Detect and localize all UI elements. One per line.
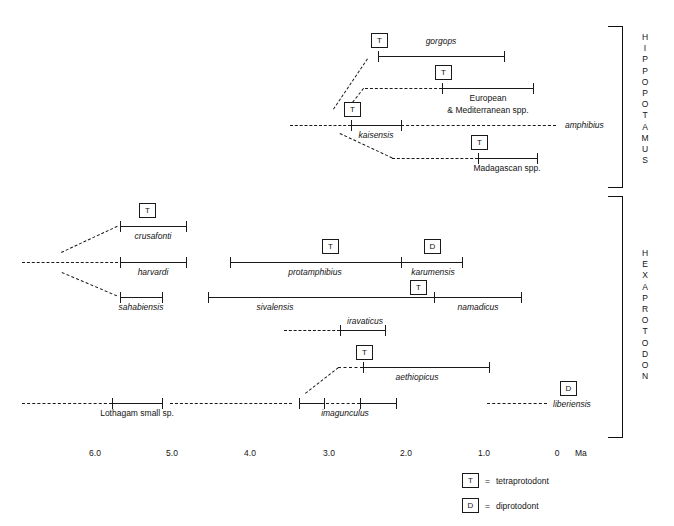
axis-tick-0: 0 bbox=[555, 448, 560, 458]
range-dash-madagascan bbox=[392, 158, 478, 159]
range-bar-iravaticus bbox=[340, 330, 385, 331]
clade-label-hippopotamus: HIPPOPOTAMUS bbox=[638, 32, 652, 166]
range-bar-kaisensis bbox=[351, 125, 401, 126]
range-cap-gorgops-right bbox=[504, 51, 505, 62]
legend-symbol-T: T bbox=[462, 473, 479, 488]
taxon-label-aethiopicus: aethiopicus bbox=[395, 372, 438, 382]
legend-row-diprotodont: D = diprotodont bbox=[462, 498, 539, 513]
range-chart-figure: T gorgops T European & Mediterranean spp… bbox=[0, 0, 674, 526]
range-cap-protamphibius-karumensis-divider bbox=[401, 257, 402, 268]
range-dash-lothagam-left bbox=[22, 403, 112, 404]
taxon-label-euromed: European bbox=[470, 93, 507, 103]
range-cap-sivalensis-left bbox=[208, 292, 209, 303]
marker-T-protamphibius: T bbox=[322, 239, 339, 254]
clade-bracket-hexaprotodon bbox=[608, 196, 623, 438]
taxon-label-protamphibius: protamphibius bbox=[288, 267, 341, 277]
taxon-label-namadicus: namadicus bbox=[457, 302, 498, 312]
range-bar-harvardi bbox=[120, 262, 186, 263]
range-cap-crusafonti-left bbox=[120, 221, 121, 232]
axis-tick-6.0: 6.0 bbox=[89, 448, 101, 458]
range-dash-imagunculus bbox=[326, 403, 360, 404]
range-bar-madagascan bbox=[478, 158, 537, 159]
range-dash-iravaticus bbox=[284, 330, 340, 331]
marker-D-liberiensis: D bbox=[560, 381, 577, 396]
taxon-label-crusafonti: crusafonti bbox=[135, 231, 172, 241]
range-dash-harvardi bbox=[22, 262, 118, 263]
range-bar-sahabiensis bbox=[120, 297, 162, 298]
taxon-label-madagascan: Madagascan spp. bbox=[473, 163, 540, 173]
axis-tick-1.0: 1.0 bbox=[478, 448, 490, 458]
range-bar-protamphibius-karumensis bbox=[230, 262, 462, 263]
range-cap-namadicus-right bbox=[521, 292, 522, 303]
taxon-label-imagunculus: imagunculus bbox=[321, 408, 369, 418]
marker-T-gorgops: T bbox=[371, 33, 388, 48]
range-cap-aethiopicus-left bbox=[363, 362, 364, 373]
axis-tick-4.0: 4.0 bbox=[244, 448, 256, 458]
range-cap-imagunculus-a-left bbox=[299, 398, 300, 409]
taxon-label-amphibius: amphibius bbox=[565, 120, 604, 130]
axis-tick-5.0: 5.0 bbox=[166, 448, 178, 458]
range-cap-harvardi-left bbox=[120, 257, 121, 268]
range-bar-gorgops bbox=[378, 56, 504, 57]
taxon-label-karumensis: karumensis bbox=[411, 267, 454, 277]
axis-tick-3.0: 3.0 bbox=[323, 448, 335, 458]
range-cap-harvardi-right bbox=[186, 257, 187, 268]
taxon-label-iravaticus: iravaticus bbox=[347, 316, 383, 326]
range-cap-gorgops-left bbox=[378, 51, 379, 62]
axis-tick-2.0: 2.0 bbox=[400, 448, 412, 458]
marker-T-euromed: T bbox=[435, 65, 452, 80]
legend-symbol-D: D bbox=[462, 498, 479, 513]
marker-T-crusafonti: T bbox=[139, 203, 156, 218]
range-cap-euromed-left bbox=[442, 83, 443, 94]
range-dash-kaisensis-left bbox=[290, 125, 351, 126]
legend-equals-T: = bbox=[485, 476, 490, 486]
range-cap-crusafonti-right bbox=[186, 221, 187, 232]
range-dash-euromed bbox=[365, 88, 442, 89]
marker-T-aethiopicus: T bbox=[356, 345, 373, 360]
range-cap-iravaticus-right bbox=[385, 325, 386, 336]
range-dash-liberiensis bbox=[487, 403, 547, 404]
clade-label-hexaprotodon: HEXAPROTODON bbox=[638, 248, 652, 382]
marker-T-madagascan: T bbox=[471, 135, 488, 150]
range-cap-kaisensis-left bbox=[351, 120, 352, 131]
range-bar-sivalensis-namadicus bbox=[208, 297, 521, 298]
range-cap-aethiopicus-right bbox=[489, 362, 490, 373]
range-dash-amphibius bbox=[401, 125, 556, 126]
clade-bracket-hippopotamus bbox=[608, 26, 623, 188]
lineage-link-aethiopicus bbox=[305, 367, 339, 394]
taxon-label-sivalensis: sivalensis bbox=[257, 302, 294, 312]
legend-text-diprotodont: diprotodont bbox=[496, 501, 539, 511]
range-bar-imagunculus-b bbox=[360, 403, 396, 404]
range-dash-lothagam-right bbox=[170, 403, 292, 404]
range-bar-lothagam bbox=[112, 403, 162, 404]
range-cap-protamphibius-left bbox=[230, 257, 231, 268]
taxon-label-kaisensis: kaisensis bbox=[359, 130, 394, 140]
legend-text-tetraprotodont: tetraprotodont bbox=[496, 476, 549, 486]
range-bar-crusafonti bbox=[120, 226, 186, 227]
range-bar-euromed bbox=[442, 88, 533, 89]
taxon-label-harvardi: harvardi bbox=[138, 267, 169, 277]
marker-T-kaisensis: T bbox=[344, 102, 361, 117]
range-dash-aethiopicus bbox=[338, 367, 363, 368]
taxon-label-sahabiensis: sahabiensis bbox=[119, 302, 164, 312]
range-bar-aethiopicus bbox=[363, 367, 489, 368]
taxon-label-liberiensis: liberiensis bbox=[553, 399, 591, 409]
range-cap-sivalensis-namadicus-divider bbox=[434, 292, 435, 303]
lineage-link-crusafonti bbox=[61, 226, 118, 253]
legend-row-tetraprotodont: T = tetraprotodont bbox=[462, 473, 549, 488]
axis-unit-label: Ma bbox=[575, 448, 587, 458]
taxon-label-gorgops: gorgops bbox=[426, 36, 457, 46]
taxon-label-euromed-line2: & Mediterranean spp. bbox=[447, 105, 528, 115]
range-cap-iravaticus-left bbox=[340, 325, 341, 336]
range-bar-imagunculus-a bbox=[299, 403, 324, 404]
lineage-link-sahabiensis bbox=[62, 272, 118, 296]
range-cap-imagunculus-b-right bbox=[396, 398, 397, 409]
marker-T-namadicus: T bbox=[410, 280, 427, 295]
range-cap-karumensis-right bbox=[462, 257, 463, 268]
range-cap-euromed-right bbox=[533, 83, 534, 94]
marker-D-karumensis: D bbox=[424, 239, 441, 254]
taxon-label-lothagam: Lothagam small sp. bbox=[100, 408, 174, 418]
legend-equals-D: = bbox=[485, 501, 490, 511]
